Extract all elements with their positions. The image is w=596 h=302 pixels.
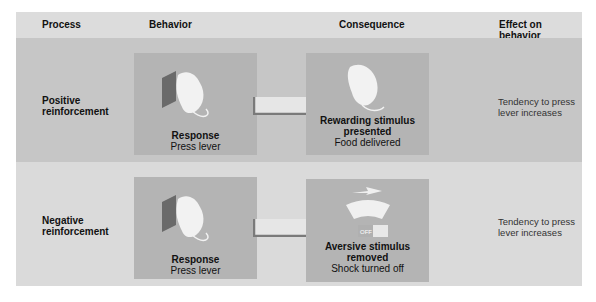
consequence-title: Rewarding stimulus presented <box>306 115 429 137</box>
effect-text: Tendency to press lever increases <box>498 96 578 118</box>
header-consequence: Consequence <box>339 19 405 30</box>
table-row-negative: Negative reinforcement Response Press le… <box>16 162 582 286</box>
table-header: Process Behavior Consequence Effect on b… <box>16 12 582 38</box>
effect-text: Tendency to press lever increases <box>498 216 578 238</box>
process-label: Positive reinforcement <box>42 95 132 117</box>
behavior-subtitle: Press lever <box>170 265 220 276</box>
consequence-subtitle: Shock turned off <box>331 263 404 274</box>
behavior-title: Response <box>134 130 257 141</box>
behavior-panel: Response Press lever <box>134 53 257 155</box>
shock-off-icon: OFF <box>306 179 429 241</box>
reinforcement-table: Process Behavior Consequence Effect on b… <box>16 12 582 286</box>
rat-eating-icon <box>306 53 429 115</box>
rat-pressing-lever-icon <box>134 53 257 123</box>
consequence-title: Aversive stimulus removed <box>306 241 429 263</box>
header-behavior: Behavior <box>149 19 192 30</box>
consequence-panel: OFF Aversive stimulus removed Shock turn… <box>306 179 429 282</box>
behavior-title: Response <box>134 254 257 265</box>
rat-pressing-lever-icon <box>134 177 257 247</box>
consequence-panel: Rewarding stimulus presented Food delive… <box>306 53 429 155</box>
table-row-positive: Positive reinforcement Response Press le… <box>16 38 582 162</box>
behavior-subtitle: Press lever <box>170 141 220 152</box>
consequence-subtitle: Food delivered <box>334 137 400 148</box>
switch-label: OFF <box>360 229 372 235</box>
header-process: Process <box>42 19 81 30</box>
behavior-panel: Response Press lever <box>134 177 257 279</box>
process-label: Negative reinforcement <box>42 215 132 237</box>
